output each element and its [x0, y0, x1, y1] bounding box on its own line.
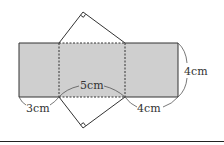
dim-arc-height-bottom: [178, 78, 187, 97]
top-triangle-face: [59, 12, 125, 43]
label-left-width: 3cm: [26, 102, 50, 115]
label-middle-width: 5cm: [80, 79, 104, 92]
dim-arc-height-top: [178, 43, 187, 63]
label-height: 4cm: [184, 65, 208, 78]
prism-net-figure: 3cm 5cm 4cm 4cm: [0, 0, 224, 145]
left-rectangle-face: [19, 43, 59, 97]
dim-arc-right-width-right: [163, 97, 178, 107]
right-rectangle-face: [125, 43, 178, 97]
dim-arc-left-width-end: [50, 97, 59, 105]
bottom-triangle-face: [59, 97, 125, 128]
dim-arc-left-width: [19, 97, 26, 105]
label-right-width: 4cm: [137, 102, 161, 115]
dim-arc-right-width-left: [125, 97, 137, 107]
